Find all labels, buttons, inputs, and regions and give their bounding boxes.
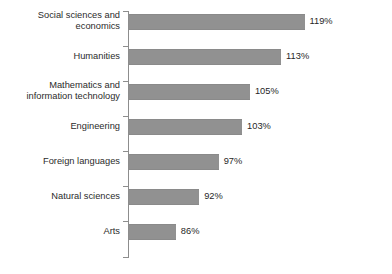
category-label: Social sciences andeconomics	[0, 10, 120, 31]
bar-value-label: 103%	[247, 121, 271, 132]
bar-row: Humanities 113%	[0, 49, 392, 65]
bar-segment[interactable]	[129, 49, 281, 65]
bar-value-label: 105%	[255, 86, 279, 97]
bar-row: Arts 86%	[0, 224, 392, 240]
bar-row: Natural sciences 92%	[0, 189, 392, 205]
bar-row: Foreign languages 97%	[0, 154, 392, 170]
axis-tick	[123, 186, 128, 187]
bar-segment[interactable]	[129, 84, 250, 100]
bar-segment[interactable]	[129, 14, 305, 30]
bar-value-label: 86%	[181, 226, 200, 237]
axis-tick	[123, 46, 128, 47]
category-label: Mathematics andinformation technology	[0, 80, 120, 101]
axis-tick	[123, 257, 128, 258]
category-label-line2: economics	[76, 21, 120, 31]
plot-area: Social sciences andeconomics 119% Humani…	[0, 0, 392, 274]
bar-segment[interactable]	[129, 224, 176, 240]
category-label-line1: Social sciences and	[38, 10, 120, 20]
category-label: Foreign languages	[0, 156, 120, 167]
bar-row: Mathematics andinformation technology 10…	[0, 84, 392, 100]
bar-value-label: 97%	[224, 156, 243, 167]
bar-row: Engineering 103%	[0, 119, 392, 135]
category-label: Engineering	[0, 121, 120, 132]
category-label: Arts	[0, 226, 120, 237]
bar-row: Social sciences andeconomics 119%	[0, 14, 392, 30]
bar-segment[interactable]	[129, 189, 199, 205]
bar-value-label: 92%	[204, 191, 223, 202]
axis-tick	[123, 116, 128, 117]
bar-value-label: 113%	[286, 51, 309, 62]
category-label-line1: Mathematics and	[49, 80, 120, 90]
axis-tick	[123, 151, 128, 152]
category-label: Humanities	[0, 51, 120, 62]
category-label-line2: information technology	[26, 91, 120, 101]
axis-tick	[123, 221, 128, 222]
bar-chart: Social sciences andeconomics 119% Humani…	[0, 0, 392, 274]
category-label: Natural sciences	[0, 191, 120, 202]
axis-tick	[123, 11, 128, 12]
bar-segment[interactable]	[129, 119, 242, 135]
axis-tick	[123, 81, 128, 82]
bar-segment[interactable]	[129, 154, 219, 170]
bar-value-label: 119%	[310, 16, 333, 27]
